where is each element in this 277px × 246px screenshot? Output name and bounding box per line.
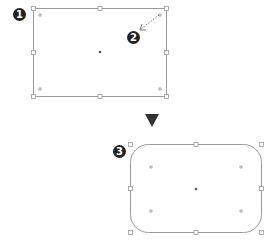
step-label-3: 3 (113, 145, 126, 158)
down-arrow-icon (145, 114, 159, 127)
drag-arrow-icon (140, 15, 159, 30)
original-rectangle[interactable] (32, 7, 169, 99)
step-label-2: 2 (127, 31, 140, 44)
center-point (99, 51, 102, 54)
center-point (195, 188, 198, 191)
step-label-1: 1 (13, 8, 26, 21)
rounded-rectangle[interactable] (129, 143, 264, 235)
